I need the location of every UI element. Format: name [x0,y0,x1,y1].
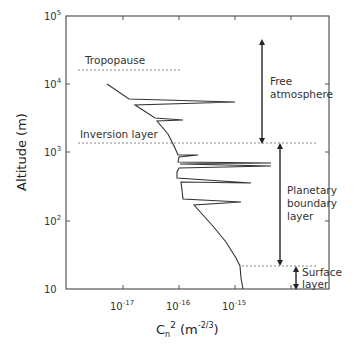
svg-text:102: 102 [44,214,61,227]
surface-layer-label-line1: Surface [302,266,342,278]
free-atmosphere-label-line1: Free [270,75,292,87]
svg-text:10: 10 [44,284,57,295]
cn2-profile-line [107,84,271,289]
svg-text:103: 103 [44,145,61,158]
x-axis-ticks [123,16,291,289]
svg-text:104: 104 [44,77,62,90]
pbl-label-line1: Planetary [287,184,337,196]
tropopause-label: Tropopause [84,54,145,66]
x-tick-labels: 10-17 10-16 10-15 [110,299,246,312]
x-axis-title: Cn2 (m-2/3) [156,320,219,339]
svg-text:10-17: 10-17 [110,299,134,312]
svg-text:10-16: 10-16 [166,299,191,312]
svg-text:105: 105 [44,9,61,22]
pbl-label-line3: layer [287,210,314,222]
pbl-label-line2: boundary [287,197,337,209]
y-tick-labels: 105 104 103 102 10 [44,9,62,295]
y-axis-title: Altitude (m) [14,113,29,191]
surface-layer-label-line2: layer [302,278,329,290]
free-atmosphere-label-line2: atmosphere [270,88,333,100]
chart-figure: 105 104 103 102 10 10-17 10-16 10-15 Alt… [0,0,362,351]
inversion-layer-label: Inversion layer [80,128,159,140]
svg-text:10-15: 10-15 [222,299,246,312]
